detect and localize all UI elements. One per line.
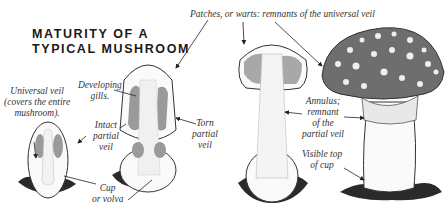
label-line: Developing xyxy=(78,80,122,91)
label-annulus: Annulus; remnant of the partial veil xyxy=(302,96,344,140)
label-universal-veil: Universal veil (covers the entire mushro… xyxy=(4,86,70,119)
label-line: remnant xyxy=(302,107,344,118)
label-line: (covers the entire xyxy=(4,97,70,108)
label-line: mushroom). xyxy=(4,108,70,119)
expanding-stage xyxy=(238,45,308,203)
label-line: veil xyxy=(93,142,119,153)
label-visible-top-of-cup: Visible top of cup xyxy=(302,149,342,171)
title-line-1: MATURITY OF A xyxy=(32,27,190,42)
label-line: of cup xyxy=(302,160,342,171)
label-developing-gills: Developing gills. xyxy=(78,80,122,102)
diagram-title: MATURITY OF A TYPICAL MUSHROOM xyxy=(32,27,190,57)
label-line: Visible top xyxy=(302,149,342,160)
label-intact-partial-veil: Intact partial veil xyxy=(93,120,119,153)
egg-stage xyxy=(18,122,76,198)
label-line: or volva xyxy=(92,194,123,205)
title-line-2: TYPICAL MUSHROOM xyxy=(32,42,190,57)
label-line: of the xyxy=(302,118,344,129)
label-line: Torn xyxy=(192,118,218,129)
label-line: Cup xyxy=(92,183,123,194)
label-line: partial xyxy=(192,129,218,140)
label-line: gills. xyxy=(78,91,122,102)
label-line: Annulus; xyxy=(302,96,344,107)
label-torn-partial-veil: Torn partial veil xyxy=(192,118,218,151)
label-line: partial veil xyxy=(302,129,344,140)
label-line: partial xyxy=(93,131,119,142)
label-patches: Patches, or warts: remnants of the unive… xyxy=(190,9,375,20)
label-line: Intact xyxy=(93,120,119,131)
label-line: veil xyxy=(192,140,218,151)
label-line: Universal veil xyxy=(4,86,70,97)
label-cup-volva: Cup or volva xyxy=(92,183,123,205)
